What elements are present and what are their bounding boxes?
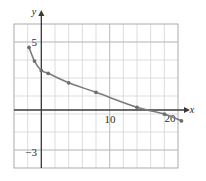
y-axis-arrow: [38, 10, 44, 16]
data-point: [33, 59, 37, 63]
data-point: [67, 81, 71, 85]
data-point: [39, 69, 43, 73]
data-point: [46, 71, 50, 75]
data-point: [94, 90, 98, 94]
y-tick-label-5: 5: [32, 36, 38, 48]
data-point: [180, 119, 184, 123]
x-axis-label: x: [189, 104, 195, 115]
coordinate-graph-svg: x y 5 −3 10 20: [0, 0, 206, 181]
y-tick-label-neg3: −3: [25, 146, 37, 158]
graph-figure: x y 5 −3 10 20: [0, 0, 206, 181]
data-point: [27, 46, 31, 50]
data-point: [162, 112, 166, 116]
data-point: [135, 105, 139, 109]
x-tick-label-10: 10: [105, 113, 117, 125]
y-axis-label: y: [31, 6, 37, 17]
